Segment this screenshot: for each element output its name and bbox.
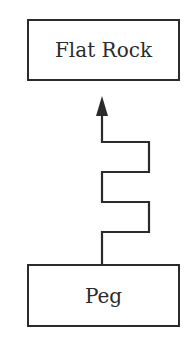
node-peg: Peg — [27, 264, 180, 327]
node-flat-rock: Flat Rock — [27, 19, 180, 81]
arrowhead-icon — [96, 96, 108, 116]
zigzag-connector — [102, 112, 149, 264]
node-label: Flat Rock — [55, 38, 152, 62]
node-label: Peg — [85, 284, 122, 308]
